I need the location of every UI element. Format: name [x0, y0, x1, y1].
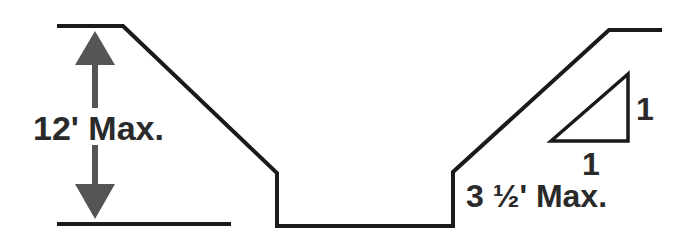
slope-rise-label: 1 — [636, 91, 654, 127]
slope-ratio-triangle-icon — [551, 74, 628, 141]
max-vertical-wall-label: 3 ½' Max. — [466, 178, 607, 214]
trench-diagram: 12' Max. 1 1 3 ½' Max. — [0, 0, 692, 249]
slope-run-label: 1 — [582, 146, 600, 182]
max-depth-label: 12' Max. — [33, 109, 164, 147]
